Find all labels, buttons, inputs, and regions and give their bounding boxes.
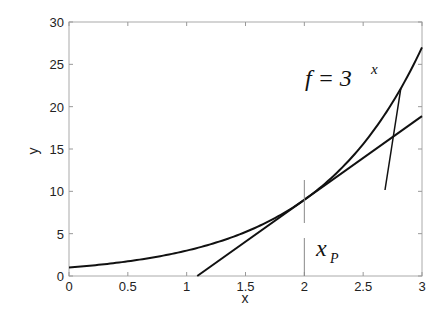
y-tick-label: 30 xyxy=(50,15,64,30)
y-tick-label: 25 xyxy=(50,57,64,72)
y-tick-label: 15 xyxy=(50,142,64,157)
curve-label-sup: x xyxy=(370,61,378,77)
x-axis-label: x xyxy=(242,290,249,306)
y-axis-label: y xyxy=(25,148,41,155)
x-tick-label: 0 xyxy=(65,279,72,294)
point-label-sub: P xyxy=(329,251,339,266)
y-tick-label: 0 xyxy=(57,269,64,284)
x-tick-label: 1 xyxy=(183,279,190,294)
y-tick-label: 20 xyxy=(50,100,64,115)
series-tangent-line xyxy=(197,116,422,276)
x-tick-label: 3 xyxy=(418,279,425,294)
x-tick-label: 2.5 xyxy=(354,279,372,294)
curve-label-main: f = 3 xyxy=(305,65,352,91)
y-tick-label: 10 xyxy=(50,184,64,199)
axes-frame xyxy=(69,22,422,276)
chart: 00.511.522.53051015202530 x y f = 3 x x … xyxy=(0,0,448,326)
series-exponential-curve xyxy=(69,47,422,267)
series-group xyxy=(69,47,422,276)
x-tick-label: 2 xyxy=(301,279,308,294)
curve-label: f = 3 xyxy=(305,65,352,91)
point-label: x xyxy=(315,235,327,261)
plot-frame xyxy=(69,22,422,276)
y-tick-label: 5 xyxy=(57,227,64,242)
x-tick-label: 0.5 xyxy=(119,279,137,294)
